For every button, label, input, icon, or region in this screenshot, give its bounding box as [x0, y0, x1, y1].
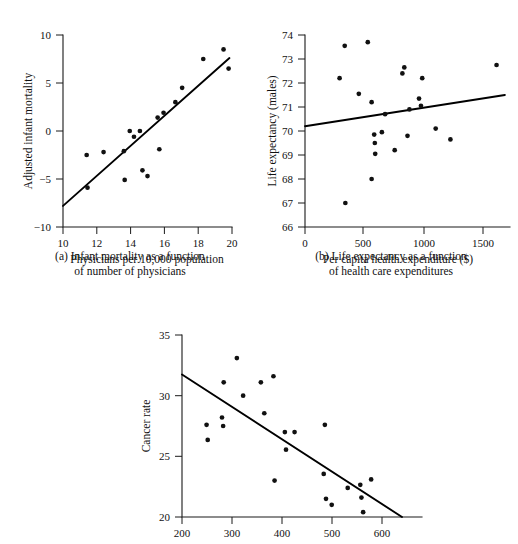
data-point	[155, 115, 160, 120]
chart-b-axes	[305, 35, 510, 227]
data-point	[262, 411, 267, 416]
chart-c-regression-line	[182, 374, 402, 517]
data-point	[372, 141, 377, 146]
chart-b-ticks	[298, 35, 483, 234]
chart-a-xtick-label: 18	[193, 237, 205, 249]
data-point	[122, 178, 127, 183]
data-point	[405, 133, 410, 138]
data-point	[323, 422, 328, 427]
chart-a-ytick-label: −5	[39, 173, 51, 185]
data-point	[138, 129, 143, 134]
data-point	[284, 447, 289, 452]
chart-a-xtick-label: 16	[159, 237, 171, 249]
data-point	[417, 96, 422, 101]
chart-a-ytick-label: 0	[46, 125, 52, 137]
chart-c-yaxis-title: Cancer rate	[140, 400, 152, 453]
chart-c-ytick-labels: 35 30 25 20	[159, 329, 171, 523]
chart-a-ytick-label: 5	[46, 77, 52, 89]
chart-c-points	[204, 356, 373, 515]
data-point	[241, 393, 246, 398]
data-point	[84, 153, 89, 158]
data-point	[221, 424, 226, 429]
data-point	[342, 43, 347, 48]
chart-a-xtick-label: 10	[58, 237, 70, 249]
chart-b-xtick-label: 500	[355, 237, 372, 249]
chart-a-xtick-label: 12	[91, 237, 102, 249]
data-point	[337, 76, 342, 81]
chart-c-ytick-label: 25	[159, 450, 171, 462]
chart-b-regression-line	[305, 95, 505, 126]
chart-c-svg: 35 30 25 20 200 300 400 500 600 Cancer r…	[120, 305, 440, 544]
data-point	[372, 132, 377, 137]
chart-b-ytick-labels: 74 73 72 71 70 69 68 67 66	[282, 29, 294, 233]
data-point	[324, 496, 329, 501]
chart-b-ytick-label: 70	[282, 125, 294, 137]
figure-page: 10 5 0 −5 −10 10 12 14 16 18 20 Physicia…	[0, 0, 518, 544]
data-point	[121, 149, 126, 154]
data-point	[448, 137, 453, 142]
data-point	[132, 134, 137, 139]
data-point	[145, 174, 150, 179]
chart-b-ytick-label: 71	[282, 101, 293, 113]
data-point	[433, 126, 438, 131]
chart-c-ytick-label: 35	[159, 329, 171, 341]
data-point	[201, 57, 206, 62]
chart-b-ytick-label: 72	[282, 77, 293, 89]
data-point	[407, 107, 412, 112]
data-point	[359, 495, 364, 500]
data-point	[220, 415, 225, 420]
chart-b-xtick-labels: 0 500 1000 1500	[302, 237, 494, 249]
chart-b-ytick-label: 74	[282, 29, 294, 41]
data-point	[420, 76, 425, 81]
chart-b-ytick-label: 69	[282, 149, 294, 161]
data-point	[180, 85, 185, 90]
chart-c-xtick-label: 200	[174, 527, 191, 539]
data-point	[101, 150, 106, 155]
chart-b-points	[337, 40, 499, 205]
data-point	[402, 65, 407, 70]
data-point	[205, 438, 210, 443]
chart-a-xtick-label: 20	[227, 237, 239, 249]
data-point	[358, 483, 363, 488]
data-point	[259, 380, 264, 385]
data-point	[383, 112, 388, 117]
data-point	[400, 71, 405, 76]
data-point	[140, 168, 145, 173]
chart-a-xtick-labels: 10 12 14 16 18 20	[58, 237, 239, 249]
data-point	[127, 129, 132, 134]
data-point	[204, 422, 209, 427]
caption-a: (a) Infant mortality as a function of nu…	[14, 249, 246, 279]
data-point	[380, 130, 385, 135]
chart-c-ytick-label: 20	[159, 511, 171, 523]
data-point	[321, 472, 326, 477]
data-point	[369, 477, 374, 482]
data-point	[226, 66, 231, 71]
data-point	[329, 503, 334, 508]
chart-a-yaxis-title: Adjusted infant mortality	[22, 73, 35, 190]
data-point	[345, 486, 350, 491]
data-point	[369, 100, 374, 105]
data-point	[369, 177, 374, 182]
chart-c-xtick-label: 300	[224, 527, 241, 539]
caption-b: (b) Life expectancy as a function of hea…	[272, 249, 510, 279]
data-point	[392, 148, 397, 153]
chart-b-xtick-label: 0	[302, 237, 308, 249]
data-point	[292, 430, 297, 435]
data-point	[271, 374, 276, 379]
data-point	[361, 510, 366, 515]
data-point	[221, 380, 226, 385]
data-point	[494, 63, 499, 68]
chart-b-ytick-label: 67	[282, 197, 294, 209]
chart-c-xtick-label: 600	[374, 527, 391, 539]
data-point	[221, 47, 226, 52]
chart-b-yaxis-title: Life expectancy (males)	[266, 75, 279, 186]
chart-a-ytick-label: −10	[34, 221, 52, 233]
chart-panel-c: 35 30 25 20 200 300 400 500 600 Cancer r…	[120, 305, 440, 544]
chart-b-ytick-label: 73	[282, 53, 294, 65]
chart-a-ytick-labels: 10 5 0 −5 −10	[34, 29, 52, 233]
chart-b-xtick-label: 1500	[472, 237, 495, 249]
chart-c-ytick-label: 30	[159, 390, 171, 402]
chart-a-regression-line	[63, 58, 229, 206]
data-point	[85, 185, 90, 190]
data-point	[161, 110, 166, 115]
